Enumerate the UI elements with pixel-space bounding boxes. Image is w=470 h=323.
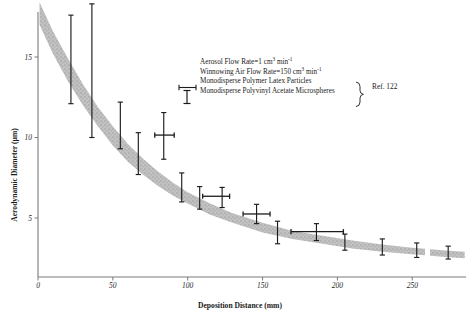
legend-winnowing-sup-inverse: -1	[317, 65, 321, 71]
y-axis-ticks: 51015	[25, 53, 39, 223]
y-axis-title: Aerodynamic Diameter (µm)	[10, 128, 19, 222]
legend-aerosol-flow-text: Aerosol Flow Rate=1 cm	[200, 58, 273, 66]
legend-reference-label: Ref. 122	[372, 82, 397, 91]
legend-winnowing-min-text: min	[304, 68, 317, 76]
data-point-vertical-error-bar	[68, 15, 73, 104]
legend-series-polymer-latex-label: Monodisperse Polymer Latex Particles	[200, 77, 312, 86]
x-axis-ticks: 050100150200250	[36, 277, 418, 290]
axes-lines	[38, 12, 466, 277]
legend-aerosol-sup-inverse: -1	[288, 56, 292, 62]
x-tick-label: 50	[109, 281, 117, 290]
series-polyvinyl-acetate-markers	[68, 4, 450, 259]
legend-aerosol-min-text: min	[275, 58, 288, 66]
x-tick-label: 250	[407, 281, 419, 290]
y-tick-label: 15	[25, 53, 33, 62]
legend-series-polyvinyl-acetate-label: Monodisperse Polyvinyl Acetate Microsphe…	[200, 87, 335, 96]
data-point-horizontal-error-bar	[155, 132, 174, 137]
y-tick-label: 10	[25, 133, 33, 142]
data-point-vertical-error-bar	[161, 113, 166, 160]
x-axis-title: Deposition Distance (mm)	[198, 301, 282, 310]
band-shaded-region	[40, 2, 465, 258]
x-tick-label: 0	[36, 281, 40, 290]
data-point-vertical-error-bar	[220, 187, 225, 207]
legend-aerosol-flow-rate: Aerosol Flow Rate=1 cm3 min-1	[200, 58, 292, 67]
legend-winnowing-flow-text: Winnowing Air Flow Rate=150 cm	[200, 68, 302, 76]
data-point-horizontal-error-bar	[203, 194, 230, 199]
chart-plot-area: 050100150200250 51015 Deposition Distanc…	[0, 0, 470, 323]
x-tick-label: 100	[182, 281, 194, 290]
legend-winnowing-flow-rate: Winnowing Air Flow Rate=150 cm3 min-1	[200, 68, 322, 77]
chart-legend: Aerosol Flow Rate=1 cm3 min-1 Winnowing …	[176, 58, 416, 116]
y-tick-label: 5	[28, 214, 32, 223]
x-tick-label: 150	[257, 281, 269, 290]
chart-figure: 050100150200250 51015 Deposition Distanc…	[0, 0, 470, 323]
x-tick-label: 200	[332, 281, 344, 290]
